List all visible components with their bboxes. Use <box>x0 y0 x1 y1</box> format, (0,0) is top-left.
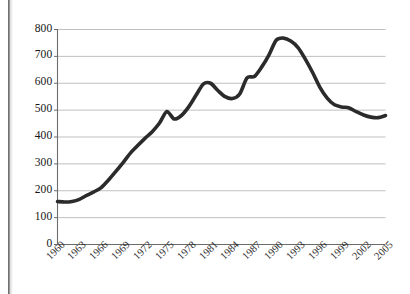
chart-figure: 0100200300400500600700800 19601963196619… <box>0 0 410 294</box>
series-line-series-1 <box>58 38 386 202</box>
y-tick-label-400: 400 <box>23 129 53 141</box>
y-tick-label-0: 0 <box>23 237 53 249</box>
y-tick-label-500: 500 <box>23 102 53 114</box>
y-tick-label-700: 700 <box>23 48 53 60</box>
y-tick-label-300: 300 <box>23 156 53 168</box>
data-series-line <box>58 38 386 202</box>
y-tick-label-200: 200 <box>23 183 53 195</box>
y-tick-label-800: 800 <box>23 22 53 34</box>
y-tick-label-100: 100 <box>23 210 53 222</box>
gridlines <box>58 30 386 218</box>
y-tick-label-600: 600 <box>23 75 53 87</box>
